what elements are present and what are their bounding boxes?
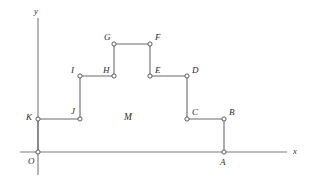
vertex-marker-c xyxy=(185,117,189,121)
coordinate-figure: y x M A B C D E F G H I J K O xyxy=(0,0,311,185)
vertex-marker-j xyxy=(78,117,82,121)
point-label-a: A xyxy=(220,158,226,167)
vertex-marker-g xyxy=(112,42,116,46)
y-axis-label: y xyxy=(34,7,38,16)
vertex-marker-f xyxy=(148,42,152,46)
point-label-h: H xyxy=(103,66,110,75)
point-label-g: G xyxy=(104,33,111,42)
vertex-markers xyxy=(36,42,226,154)
point-label-j: J xyxy=(71,107,75,116)
vertex-marker-h xyxy=(112,74,116,78)
staircase-path xyxy=(38,44,224,152)
vertex-marker-a xyxy=(222,150,226,154)
point-label-f: F xyxy=(155,33,161,42)
axes-group xyxy=(20,18,287,175)
point-label-b: B xyxy=(229,108,235,117)
point-label-k: K xyxy=(26,113,32,122)
vertex-marker-o xyxy=(36,150,40,154)
x-axis-label: x xyxy=(293,147,297,156)
origin-label: O xyxy=(28,157,35,166)
point-label-i: I xyxy=(71,66,74,75)
point-label-d: D xyxy=(192,66,199,75)
staircase-polyline xyxy=(38,44,224,152)
vertex-marker-b xyxy=(222,117,226,121)
vertex-marker-e xyxy=(148,74,152,78)
region-label-m: M xyxy=(124,113,132,123)
figure-canvas xyxy=(0,0,311,185)
vertex-marker-k xyxy=(36,117,40,121)
point-label-c: C xyxy=(192,108,198,117)
vertex-marker-i xyxy=(78,74,82,78)
vertex-marker-d xyxy=(185,74,189,78)
point-label-e: E xyxy=(155,66,161,75)
